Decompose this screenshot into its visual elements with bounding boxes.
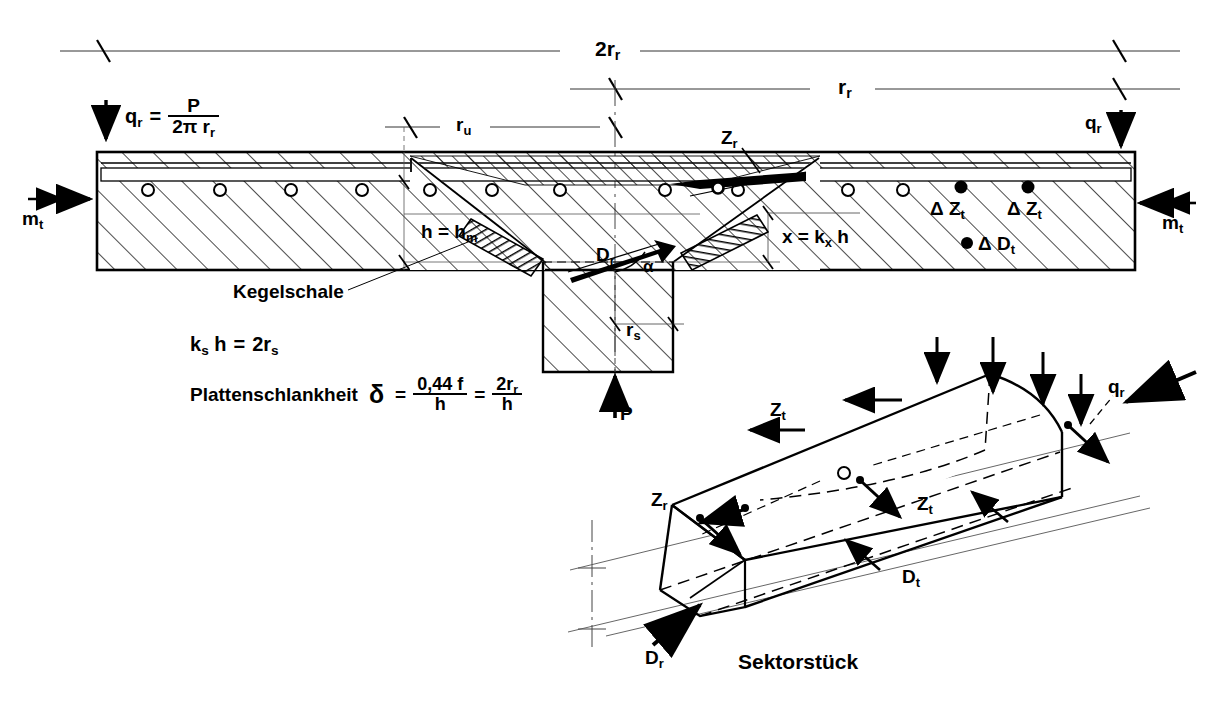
moment-label-mt-left: mt [22,209,43,228]
sector-force-label-Dt: Dt [902,567,920,586]
delta-label-Zt-1: Δ Zt [930,199,965,218]
thickness-label-h: h = hm [421,222,477,241]
delta-label-Dt: Δ Dt [978,234,1015,253]
slenderness-name: Plattenschlankheit [190,385,358,404]
section-force-label-Dr: Dr [596,245,615,264]
dimension-label-rr: rr [838,76,852,97]
qr-denominator: 2π rr [168,117,219,136]
dimension-label-2rr: 2rr [595,38,620,59]
equation-slenderness: Plattenschlankheit δ = 0,44 f h = 2rr h [190,375,522,413]
dimension-label-ru: ru [456,115,471,134]
slenderness-symbol: δ [365,382,388,407]
dimension-label-rs: rs [626,320,641,339]
neutral-axis-label-x: x = kx h [782,227,849,246]
sector-force-label-Zt-mid: Zt [917,494,933,513]
sector-load-label-qr: qr [1108,377,1125,396]
column-section [543,262,673,372]
load-label-qr-right: qr [1085,113,1102,132]
sector-force-label-Zr: Zr [651,490,668,509]
equation-qr-definition: qr = P 2π rr [125,96,219,136]
equation-ks-relation: ks h = 2rs [190,334,279,354]
section-force-label-Zr: Zr [721,128,738,147]
figure-canvas: 2rr rr ru rs qr = P 2π rr qr mt mt h = h… [0,0,1219,710]
moment-label-mt-right: mt [1162,213,1183,232]
sector-force-label-Dr: Dr [645,648,664,667]
reaction-label-P: P [620,404,633,423]
sector-caption: Sektorstück [738,651,858,672]
dimension-line-ru [385,117,622,138]
delta-label-Zt-2: Δ Zt [1007,199,1042,218]
kegelschale-label: Kegelschale [233,282,344,301]
sector-force-Dr [653,605,700,645]
sector-force-label-Zt-top: Zt [770,400,786,419]
dimension-line-rr [570,78,1180,100]
angle-label-alpha: α [643,258,653,275]
qr-numerator: P [168,96,219,117]
